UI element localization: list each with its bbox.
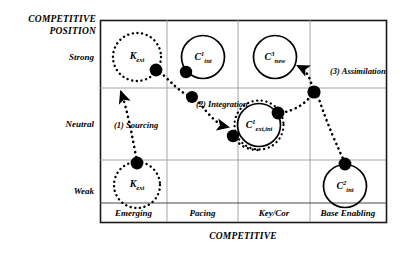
dot-c2-int <box>339 158 352 171</box>
dot-k-ext-weak <box>131 157 144 170</box>
y-axis-title-line2: POSITION <box>10 26 96 36</box>
node-sub-c1-int: int <box>204 57 211 64</box>
flow-path-assimilation-a <box>281 97 310 113</box>
node-sup-c1-int: 1 <box>201 50 204 57</box>
x-tick-base-enabling: Base Enabling <box>310 208 386 218</box>
node-sub-k-ext-strong: ext <box>136 56 144 63</box>
node-sup-c1-ext-int: 1 <box>252 118 255 125</box>
flow-path-assimilation-to-c2 <box>318 96 345 163</box>
node-sub-c1-ext-int: ext,int <box>256 125 273 132</box>
flow-label-integration: (2) Integration <box>196 99 248 109</box>
x-tick-key-cor: Key/Cor <box>238 208 310 218</box>
node-label-c3-new: C3new <box>252 50 298 64</box>
flow-label-assimilation: (3) Assimilation <box>330 66 386 76</box>
node-label-c2-int: C2int <box>322 179 368 193</box>
node-label-k-ext-weak: Kext <box>113 178 161 191</box>
diagram-canvas: COMPETITIVE POSITION Strong Neutral Weak… <box>0 0 418 257</box>
y-tick-weak: Weak <box>30 186 94 196</box>
node-label-c1-int: C1int <box>181 50 225 64</box>
dot-k-ext-strong <box>150 64 163 77</box>
flow-node-dots <box>131 64 352 171</box>
node-label-k-ext-strong: Kext <box>113 50 161 63</box>
node-sub-k-ext-weak: ext <box>136 184 144 191</box>
y-axis-title-line1: COMPETITIVE <box>10 14 96 24</box>
y-tick-neutral: Neutral <box>30 119 94 129</box>
y-tick-strong: Strong <box>30 52 94 62</box>
x-tick-pacing: Pacing <box>167 208 238 218</box>
x-tick-emerging: Emerging <box>100 208 167 218</box>
dot-assimilation <box>307 85 320 98</box>
node-sub-c2-int: int <box>346 186 353 193</box>
flow-label-sourcing: (1) Sourcing <box>114 120 158 130</box>
node-label-c1-ext-int: C1ext,int <box>234 118 284 132</box>
node-sup-c2-int: 2 <box>343 179 346 186</box>
dot-c1-int <box>180 66 192 78</box>
node-sup-c3-new: 3 <box>271 50 274 57</box>
x-axis-title: COMPETITIVE <box>100 231 386 241</box>
node-sub-c3-new: new <box>275 57 286 64</box>
